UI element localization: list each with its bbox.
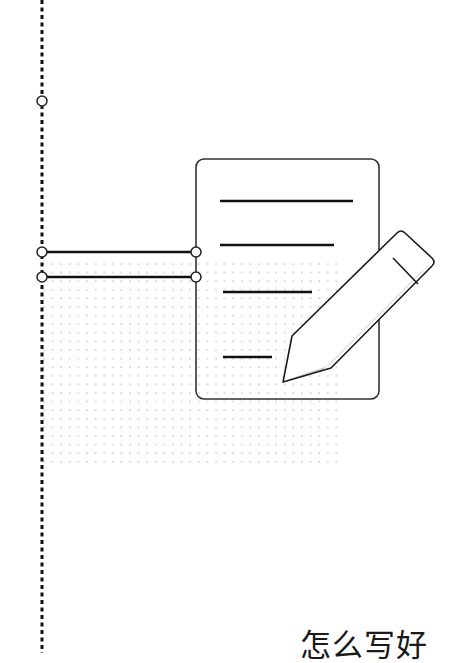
connector-node-icon	[37, 247, 47, 257]
timeline-node-icon	[37, 96, 47, 106]
article-title: 怎么写好	[300, 630, 428, 661]
connector-node-icon	[191, 247, 201, 257]
connector-node-icon	[191, 272, 201, 282]
connector-node-icon	[37, 272, 47, 282]
